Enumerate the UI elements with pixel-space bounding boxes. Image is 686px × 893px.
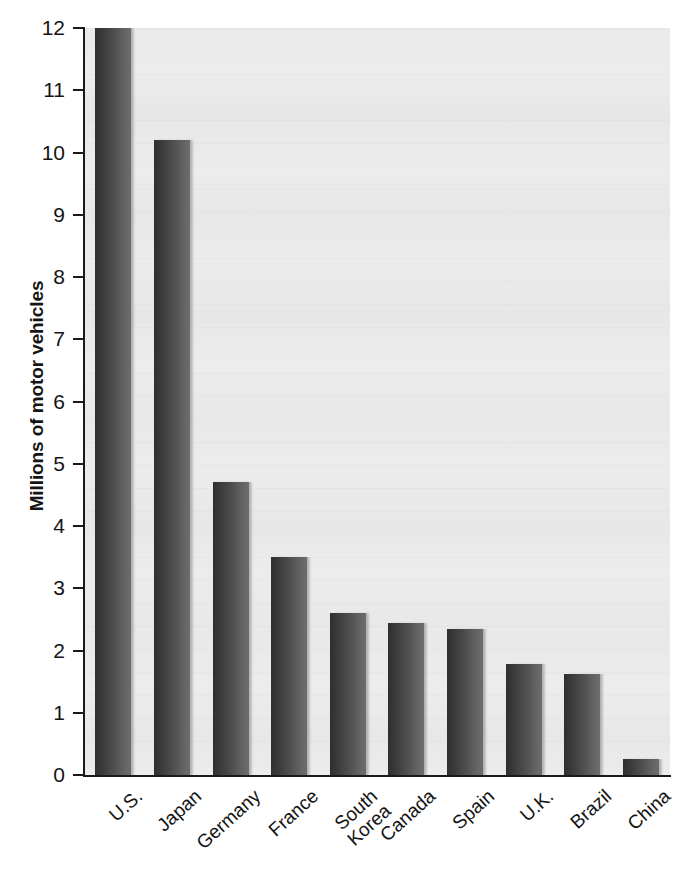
bar-edge-highlight xyxy=(600,674,604,775)
y-axis-tick-label: 0 xyxy=(11,764,65,785)
y-axis-tick xyxy=(73,214,84,216)
bar xyxy=(506,664,542,775)
bar xyxy=(213,482,249,775)
bar-edge-highlight xyxy=(131,28,135,775)
y-axis-tick-label: 10 xyxy=(11,142,65,163)
y-axis-tick xyxy=(73,463,84,465)
bar xyxy=(271,557,307,775)
bar xyxy=(154,140,190,775)
bar xyxy=(388,623,424,776)
bar xyxy=(95,28,131,775)
y-axis-tick-label: 1 xyxy=(11,702,65,723)
y-axis-tick xyxy=(73,338,84,340)
y-axis-tick xyxy=(73,152,84,154)
y-axis-tick xyxy=(73,525,84,527)
bar-edge-highlight xyxy=(483,629,487,775)
bar-chart-figure: 1211109876543210 U.S.JapanGermanyFranceS… xyxy=(0,0,686,893)
bar-edge-highlight xyxy=(659,759,663,775)
y-axis-tick xyxy=(73,650,84,652)
y-axis-tick-label: 9 xyxy=(11,204,65,225)
y-axis-title: Millions of motor vehicles xyxy=(26,256,48,536)
x-axis-line xyxy=(83,775,671,777)
y-axis-tick-label: 2 xyxy=(11,640,65,661)
bar xyxy=(330,613,366,775)
bar-edge-highlight xyxy=(249,482,253,775)
y-axis-tick xyxy=(73,712,84,714)
y-axis-tick xyxy=(73,89,84,91)
bar xyxy=(447,629,483,775)
bar-edge-highlight xyxy=(542,664,546,775)
bar-edge-highlight xyxy=(190,140,194,775)
bar-edge-highlight xyxy=(424,623,428,776)
bar-edge-highlight xyxy=(307,557,311,775)
y-axis-tick xyxy=(73,27,84,29)
y-axis-tick-label: 11 xyxy=(11,79,65,100)
bar-edge-highlight xyxy=(366,613,370,775)
plot-area xyxy=(84,28,670,775)
x-axis-tick-label: U.S. xyxy=(22,786,147,893)
y-axis-tick xyxy=(73,774,84,776)
y-axis-tick xyxy=(73,587,84,589)
y-axis-tick-label: 3 xyxy=(11,577,65,598)
bar xyxy=(564,674,600,775)
bar xyxy=(623,759,659,775)
y-axis-tick xyxy=(73,401,84,403)
y-axis-tick-label: 12 xyxy=(11,17,65,38)
y-axis-tick xyxy=(73,276,84,278)
